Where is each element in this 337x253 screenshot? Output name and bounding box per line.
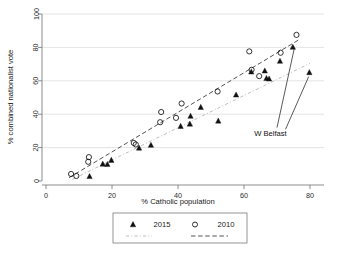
y-axis-title: % combined nationalist vote — [6, 50, 15, 145]
data-point-2010 — [278, 50, 283, 55]
data-point-2015 — [277, 58, 282, 63]
y-tick-label: 40 — [32, 110, 41, 118]
data-point-2010 — [179, 101, 184, 106]
data-point-2010 — [247, 49, 252, 54]
fit-lines-group — [69, 39, 310, 179]
x-tick-label: 60 — [240, 191, 248, 200]
annotation-label-w-belfast: W Belfast — [254, 129, 287, 138]
data-point-2015 — [216, 118, 221, 123]
data-point-2010 — [159, 109, 164, 114]
y-axis-ticks: 020406080100 — [32, 8, 43, 183]
y-tick-label: 80 — [32, 43, 41, 51]
data-point-2015 — [233, 92, 238, 97]
data-point-2015 — [178, 123, 183, 128]
series-2015-markers — [87, 44, 312, 178]
legend-marker-2010 — [193, 222, 198, 227]
data-point-2015 — [148, 142, 153, 147]
y-tick-label: 60 — [32, 77, 41, 85]
data-point-2010 — [173, 115, 178, 120]
y-tick-label: 20 — [32, 144, 41, 152]
annotation-leader-line — [286, 77, 309, 130]
x-axis-title: % Catholic population — [141, 197, 214, 206]
y-tick-label: 100 — [32, 8, 41, 20]
data-point-2010 — [68, 171, 73, 176]
x-tick-label: 20 — [108, 191, 116, 200]
axes-group — [42, 14, 324, 185]
chart-legend: 2015 2010 — [113, 213, 247, 243]
data-point-2010 — [257, 74, 262, 79]
series-2010-markers — [68, 32, 299, 178]
data-point-2015 — [187, 121, 192, 126]
legend-label-2010: 2010 — [218, 220, 235, 229]
chart-canvas: 020406080100 020406080 W Belfast % Catho… — [0, 0, 337, 253]
legend-marker-2015 — [130, 222, 136, 227]
data-point-2010 — [215, 89, 220, 94]
2010-fit — [69, 39, 300, 178]
scatter-chart: 020406080100 020406080 W Belfast % Catho… — [0, 0, 337, 253]
data-point-2010 — [294, 32, 299, 37]
x-tick-label: 0 — [44, 191, 48, 200]
y-tick-label: 0 — [32, 179, 41, 183]
legend-label-2015: 2015 — [154, 220, 171, 229]
data-point-2015 — [307, 70, 312, 75]
x-tick-label: 80 — [306, 191, 314, 200]
data-point-2015 — [87, 173, 92, 178]
data-point-2015 — [198, 104, 203, 109]
data-point-2015 — [262, 68, 267, 73]
data-point-2010 — [74, 173, 79, 178]
